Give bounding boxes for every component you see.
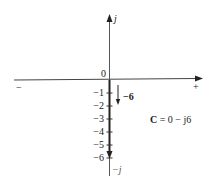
imag-axis-negative-label: −j: [112, 165, 122, 175]
imag-tick-label: −4: [88, 127, 104, 137]
imag-tick-label: −6: [88, 153, 104, 163]
origin-label: 0: [101, 69, 106, 79]
real-axis-negative-label: −: [16, 83, 22, 93]
real-axis-positive-label: +: [193, 82, 199, 92]
imag-axis-positive-label: j: [114, 14, 117, 24]
phasor-equation: C = 0 − j6: [150, 115, 191, 125]
imag-tick-label: −1: [88, 88, 104, 98]
magnitude-arrow-head-icon: [116, 99, 120, 105]
phasor-value: = 0 − j6: [157, 114, 191, 125]
imaginary-axis-arrowhead-icon: [107, 14, 113, 22]
imag-tick-label: −5: [88, 140, 104, 150]
phasor-diagram-canvas: [0, 0, 216, 188]
imag-tick-label: −3: [88, 114, 104, 124]
imag-tick-label: −2: [88, 101, 104, 111]
phasor-magnitude-label: −6: [123, 92, 134, 102]
